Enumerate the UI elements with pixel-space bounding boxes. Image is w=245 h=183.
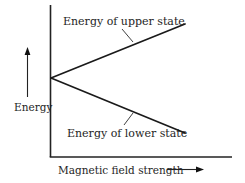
- x-axis-label: Magnetic field strength: [58, 164, 184, 176]
- y-axis-indicator: [25, 47, 31, 97]
- lower-leader-line: [124, 113, 133, 125]
- upper-state-label: Energy of upper state: [63, 15, 185, 28]
- upper-leader-line: [122, 29, 133, 42]
- y-axis-label: Energy: [14, 101, 52, 113]
- lower-state-label: Energy of lower state: [67, 127, 187, 140]
- lower-state-line: [51, 78, 185, 133]
- energy-level-diagram: Energy of upper state Energy of lower st…: [0, 0, 245, 183]
- energy-lines: [51, 24, 185, 133]
- up-arrow-icon: [25, 47, 31, 55]
- upper-state-line: [51, 24, 185, 78]
- right-arrow-icon: [196, 167, 204, 173]
